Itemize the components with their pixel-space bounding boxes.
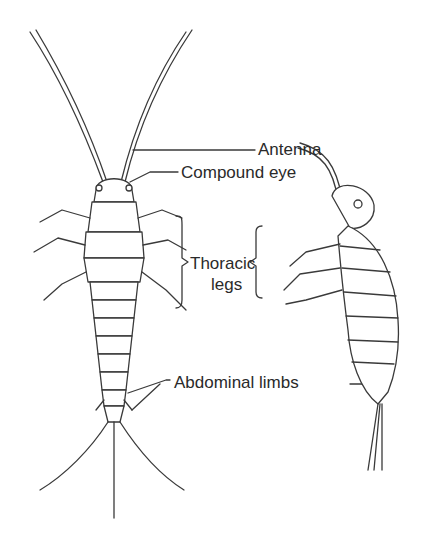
label-abdominal-limbs: Abdominal limbs [174,373,299,392]
left-brace [176,216,188,308]
compound-eye-leader [130,172,178,182]
lateral-view [284,143,399,470]
abdominal-leader-b [132,384,160,410]
label-antenna: Antenna [258,140,321,159]
label-legs: legs [211,275,242,294]
label-compound-eye: Compound eye [181,163,296,182]
abdominal-leader-a [128,380,170,393]
label-thoracic: Thoracic [190,254,255,273]
dorsal-view [30,30,192,518]
insect-anatomy-diagram: Antenna Compound eye Thoracic legs Abdom… [0,0,445,536]
